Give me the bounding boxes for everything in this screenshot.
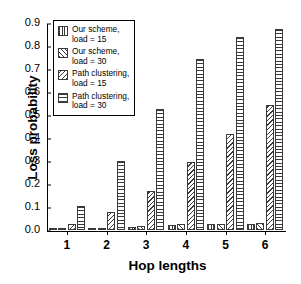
bar (217, 224, 225, 230)
bar (236, 37, 244, 230)
legend-item-label: Path clustering, load = 15 (72, 69, 129, 88)
legend-item-label: Our scheme, load = 30 (72, 47, 120, 66)
bar (107, 212, 115, 230)
legend-swatch-vertical-lines-icon (58, 26, 68, 36)
legend-item: Our scheme, load = 15 (58, 25, 129, 44)
x-tick-mark (67, 231, 68, 235)
x-axis-line (47, 231, 286, 232)
bar (196, 59, 204, 230)
bar-group (247, 23, 284, 230)
y-tick-label: 0.6 (25, 85, 40, 97)
x-tick-mark (226, 231, 227, 235)
legend-item-label: Path clustering, load = 30 (72, 92, 129, 111)
y-tick-mark (47, 231, 51, 232)
bar (275, 29, 283, 230)
bar (156, 109, 164, 230)
bar (98, 228, 106, 230)
legend-swatch-forward-diagonal-lines-icon (58, 70, 68, 80)
y-tick-label: 0.1 (25, 200, 40, 212)
bar-group (207, 23, 244, 230)
bar (266, 105, 274, 230)
y-tick-label: 0.4 (25, 131, 40, 143)
bar (247, 224, 255, 230)
y-tick-label: 0.5 (25, 108, 40, 120)
legend-swatch-horizontal-lines-icon (58, 93, 68, 103)
y-tick-label: 0.9 (25, 16, 40, 28)
y-tick-label: 0.7 (25, 62, 40, 74)
legend-item: Path clustering, load = 15 (58, 69, 129, 88)
bar (88, 228, 96, 230)
x-tick-label: 2 (95, 238, 119, 252)
bar (226, 134, 234, 230)
x-tick-label: 4 (174, 238, 198, 252)
y-tick-label: 0.8 (25, 39, 40, 51)
bar-group (168, 23, 205, 230)
legend-item-label: Our scheme, load = 15 (72, 25, 120, 44)
legend-item: Path clustering, load = 30 (58, 92, 129, 111)
loss-probability-bar-chart: Loss probability Hop lengths 0.00.10.20.… (0, 0, 301, 284)
bar (49, 228, 57, 230)
bar (137, 226, 145, 230)
bar (207, 224, 215, 230)
x-tick-mark (146, 231, 147, 235)
y-tick-label: 0.0 (25, 223, 40, 235)
bar (177, 224, 185, 230)
chart-legend: Our scheme, load = 15 Our scheme, load =… (53, 20, 135, 116)
bar (168, 225, 176, 230)
x-tick-mark (107, 231, 108, 235)
x-tick-label: 1 (55, 238, 79, 252)
legend-item: Our scheme, load = 30 (58, 47, 129, 66)
legend-swatch-back-diagonal-lines-icon (58, 48, 68, 58)
bar (58, 228, 66, 230)
bar (117, 161, 125, 230)
x-axis-title: Hop lengths (45, 258, 290, 273)
bar (256, 223, 264, 230)
x-tick-label: 5 (214, 238, 238, 252)
x-tick-mark (186, 231, 187, 235)
y-tick-label: 0.3 (25, 154, 40, 166)
x-tick-mark (265, 231, 266, 235)
x-tick-label: 3 (134, 238, 158, 252)
y-tick-label: 0.2 (25, 177, 40, 189)
x-tick-label: 6 (253, 238, 277, 252)
bar (128, 227, 136, 230)
bar (187, 162, 195, 230)
bar (68, 224, 76, 230)
bar (147, 191, 155, 230)
bar (77, 206, 85, 230)
